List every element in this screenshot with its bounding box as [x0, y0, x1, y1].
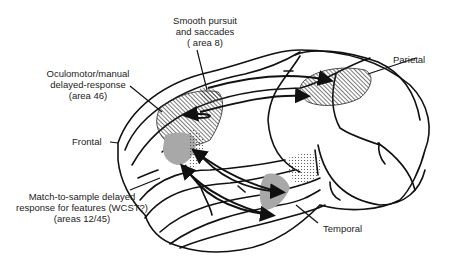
label-area-46: Oculomotor/manual delayed-response (area… [38, 68, 138, 101]
label-frontal: Frontal [72, 136, 102, 147]
parietal-region [300, 68, 371, 105]
label-parietal: Parietal [393, 54, 425, 65]
label-area-8: Smooth pursuit and saccades ( area 8) [155, 15, 255, 48]
brain-diagram: Smooth pursuit and saccades ( area 8) Oc… [0, 0, 452, 259]
temporal-stipple-region [288, 154, 322, 185]
label-temporal: Temporal [323, 223, 362, 234]
label-areas-12-45: Match-to-sample delayed response for fea… [12, 191, 152, 224]
